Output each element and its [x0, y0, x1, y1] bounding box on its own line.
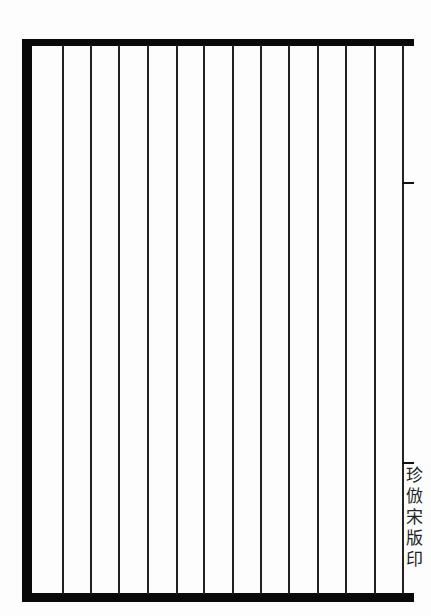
- frame-bottom-border: [22, 593, 414, 602]
- column-rule-line: [90, 45, 92, 594]
- frame-top-border: [22, 39, 414, 46]
- column-rule-line: [232, 45, 234, 594]
- column-rule-line: [345, 45, 347, 594]
- column-rule-line: [374, 45, 376, 594]
- column-rule-line: [118, 45, 120, 594]
- fold-tick-upper: [402, 182, 414, 184]
- column-rule-line: [317, 45, 319, 594]
- manuscript-page: 珍倣宋版印: [0, 0, 431, 616]
- frame-left-border: [22, 39, 32, 602]
- fold-tick-lower: [402, 462, 414, 464]
- column-rule-line: [147, 45, 149, 594]
- column-rule-line: [176, 45, 178, 594]
- column-rule-line: [260, 45, 262, 594]
- column-rule-line: [288, 45, 290, 594]
- margin-imprint-text: 珍倣宋版印: [403, 466, 423, 571]
- column-rule-line: [62, 45, 64, 594]
- column-rule-line: [203, 45, 205, 594]
